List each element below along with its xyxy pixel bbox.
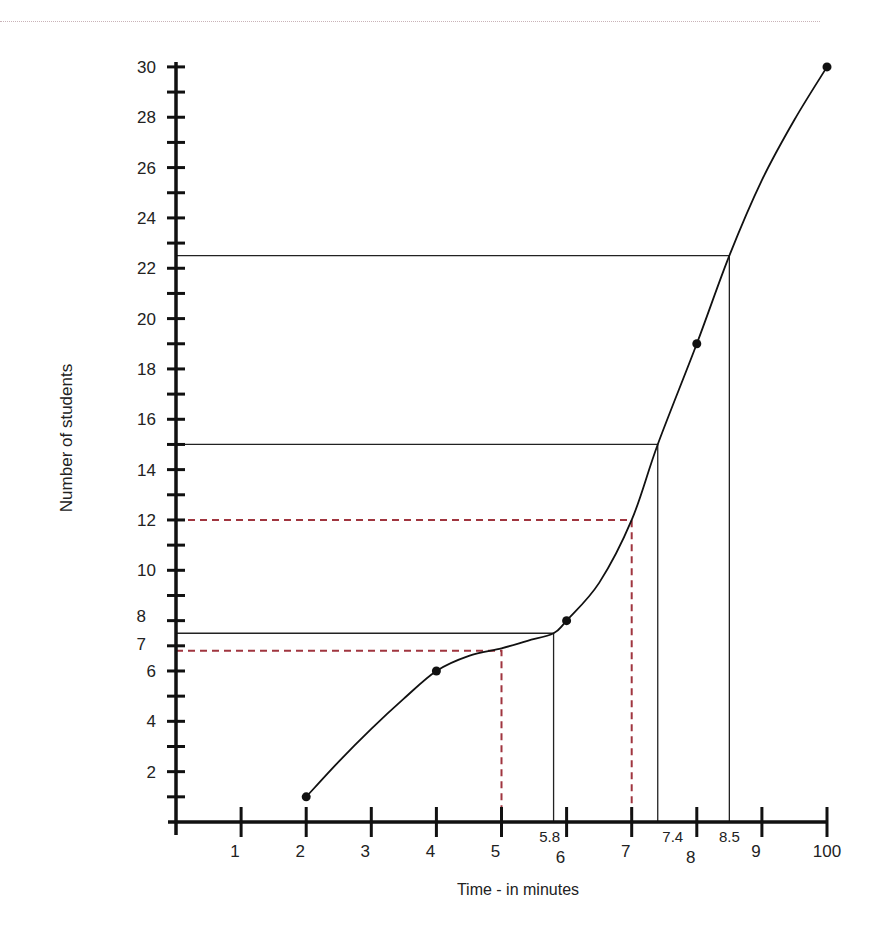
y-axis-title: Number of students — [57, 364, 76, 512]
y-tick-label: 22 — [137, 259, 156, 278]
y-tick-label: 6 — [147, 662, 156, 681]
reference-lines: 5.87.48.5 — [176, 256, 740, 845]
data-point — [562, 616, 571, 625]
dashed-guide-line — [176, 520, 632, 822]
x-tick-label: 5 — [491, 842, 500, 861]
x-tick-label: 7 — [621, 842, 630, 861]
y-tick-label: 4 — [147, 712, 156, 731]
x-tick-label: 9 — [751, 842, 760, 861]
y-tick-label: 24 — [137, 209, 156, 228]
x-tick-label: 1 — [230, 842, 239, 861]
y-tick-label: 7 — [137, 635, 146, 654]
y-tick-label: 26 — [137, 159, 156, 178]
data-point — [692, 339, 701, 348]
x-tick-label: 8 — [686, 848, 695, 867]
y-tick-label: 18 — [137, 360, 156, 379]
data-curve — [302, 62, 832, 801]
x-tick-label: 6 — [556, 848, 565, 867]
y-tick-label: 20 — [137, 310, 156, 329]
solid-guide-line — [176, 633, 554, 822]
data-point — [302, 792, 311, 801]
y-tick-label: 8 — [137, 607, 146, 626]
x-tick-label: 100 — [813, 842, 841, 861]
y-tick-label: 2 — [147, 763, 156, 782]
data-point — [823, 62, 832, 71]
data-point — [432, 666, 441, 675]
cumulative-frequency-chart: 5.87.48.5 246781012141618202224262830123… — [0, 0, 883, 938]
dashed-guide-line — [176, 651, 502, 822]
data-curve-line — [306, 67, 827, 797]
y-tick-label: 28 — [137, 108, 156, 127]
guide-x-value-label: 7.4 — [662, 828, 683, 845]
guide-x-value-label: 8.5 — [719, 828, 740, 845]
x-tick-label: 2 — [295, 842, 304, 861]
y-tick-label: 30 — [137, 58, 156, 77]
guide-x-value-label: 5.8 — [539, 828, 560, 845]
x-tick-label: 3 — [361, 842, 370, 861]
y-tick-label: 12 — [137, 511, 156, 530]
y-tick-label: 14 — [137, 461, 156, 480]
x-axis-title: Time - in minutes — [457, 881, 579, 898]
y-tick-label: 16 — [137, 410, 156, 429]
axes: 246781012141618202224262830123456789100 — [137, 58, 842, 867]
solid-guide-line — [176, 256, 729, 822]
y-tick-label: 10 — [137, 561, 156, 580]
x-tick-label: 4 — [426, 842, 435, 861]
